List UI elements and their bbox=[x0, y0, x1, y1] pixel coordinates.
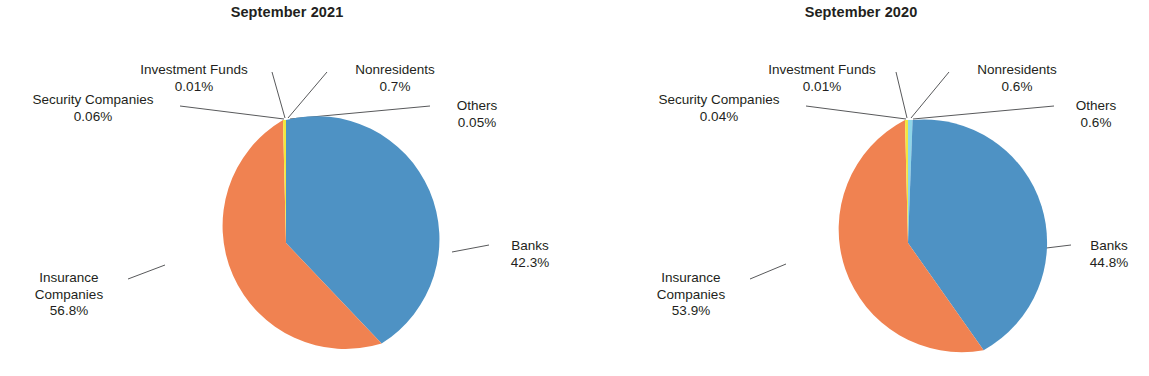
label-security-companies-right-name: Security Companies bbox=[634, 92, 804, 109]
pie-slices-right bbox=[839, 120, 1047, 353]
label-others-right-name: Others bbox=[1056, 98, 1136, 115]
pie-left-wrapper bbox=[0, 0, 574, 376]
label-investment-funds-left: Investment Funds 0.01% bbox=[114, 62, 274, 95]
label-banks-left-value: 42.3% bbox=[494, 255, 566, 272]
leader-banks-left bbox=[452, 245, 489, 252]
leader-security-right bbox=[806, 106, 906, 119]
pie-chart-figure: September 2021 bbox=[0, 0, 1149, 376]
label-nonresidents-right: Nonresidents 0.6% bbox=[952, 62, 1082, 95]
pie-right-wrapper bbox=[574, 0, 1148, 376]
label-banks-right-name: Banks bbox=[1076, 238, 1142, 255]
label-banks-right: Banks 44.8% bbox=[1076, 238, 1142, 271]
label-nonresidents-left-name: Nonresidents bbox=[330, 62, 460, 79]
label-investment-funds-right: Investment Funds 0.01% bbox=[742, 62, 902, 95]
label-security-companies-left-value: 0.06% bbox=[8, 109, 178, 126]
label-insurance-companies-left-name-2: Companies bbox=[14, 287, 124, 304]
label-others-right-value: 0.6% bbox=[1056, 115, 1136, 132]
label-banks-left-name: Banks bbox=[494, 238, 566, 255]
label-banks-left: Banks 42.3% bbox=[494, 238, 566, 271]
label-security-companies-right-value: 0.04% bbox=[634, 109, 804, 126]
label-security-companies-right: Security Companies 0.04% bbox=[634, 92, 804, 125]
leader-others-right bbox=[913, 106, 1054, 119]
label-nonresidents-right-name: Nonresidents bbox=[952, 62, 1082, 79]
leader-insurance-right bbox=[750, 264, 786, 279]
label-insurance-companies-right: Insurance Companies 53.9% bbox=[636, 270, 746, 320]
label-insurance-companies-left: Insurance Companies 56.8% bbox=[14, 270, 124, 320]
label-others-left: Others 0.05% bbox=[432, 98, 522, 131]
leader-insurance-left bbox=[128, 265, 165, 279]
label-investment-funds-left-name: Investment Funds bbox=[114, 62, 274, 79]
label-banks-right-value: 44.8% bbox=[1076, 255, 1142, 272]
label-nonresidents-left-value: 0.7% bbox=[330, 79, 460, 96]
pie-right-svg bbox=[574, 0, 1148, 376]
chart-panel-september-2020: September 2020 bbox=[574, 0, 1148, 376]
label-nonresidents-right-value: 0.6% bbox=[952, 79, 1082, 96]
label-others-right: Others 0.6% bbox=[1056, 98, 1136, 131]
leader-nonresidents-left bbox=[288, 72, 327, 118]
leader-security-left bbox=[180, 106, 284, 119]
pie-left-svg bbox=[0, 0, 574, 376]
label-investment-funds-right-name: Investment Funds bbox=[742, 62, 902, 79]
label-security-companies-left-name: Security Companies bbox=[8, 92, 178, 109]
label-insurance-companies-right-name-1: Insurance bbox=[636, 270, 746, 287]
chart-panel-september-2021: September 2021 bbox=[0, 0, 574, 376]
leader-nonresidents-right bbox=[911, 72, 949, 118]
label-others-left-name: Others bbox=[432, 98, 522, 115]
label-nonresidents-left: Nonresidents 0.7% bbox=[330, 62, 460, 95]
label-insurance-companies-left-name-1: Insurance bbox=[14, 270, 124, 287]
label-security-companies-left: Security Companies 0.06% bbox=[8, 92, 178, 125]
label-others-left-value: 0.05% bbox=[432, 115, 522, 132]
pie-slices-left bbox=[223, 116, 440, 349]
label-insurance-companies-right-name-2: Companies bbox=[636, 287, 746, 304]
label-insurance-companies-left-value: 56.8% bbox=[14, 303, 124, 320]
label-insurance-companies-right-value: 53.9% bbox=[636, 303, 746, 320]
